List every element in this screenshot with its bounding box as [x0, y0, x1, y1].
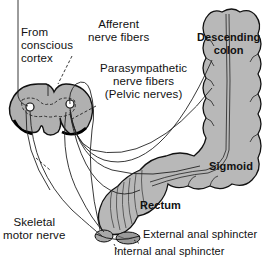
label-parasympathetic: Parasympathetic nerve fibers (Pelvic ner… — [100, 62, 187, 101]
label-afferent: Afferent nerve fibers — [88, 18, 149, 44]
label-internal-sphincter: Internal anal sphincter — [114, 245, 225, 258]
label-line: Parasympathetic — [100, 62, 187, 75]
label-line: Skeletal — [3, 216, 65, 229]
label-line: motor nerve — [3, 229, 65, 242]
label-skeletal-motor: Skeletal motor nerve — [3, 216, 65, 242]
label-pelvic-nerves: (Pelvic nerves) — [100, 88, 187, 101]
label-from-cortex: From conscious cortex — [21, 26, 73, 65]
label-line: colon — [197, 44, 260, 57]
label-line: nerve fibers — [100, 75, 187, 88]
label-external-sphincter: External anal sphincter — [143, 228, 257, 241]
label-line: nerve fibers — [88, 31, 149, 44]
label-rectum: Rectum — [140, 199, 181, 212]
label-descending-colon: Descending colon — [197, 31, 260, 57]
label-line: Descending — [197, 31, 260, 44]
label-line: conscious — [21, 39, 73, 52]
innervation-diagram: From conscious cortex Afferent nerve fib… — [0, 0, 269, 260]
label-line: Afferent — [88, 18, 149, 31]
label-sigmoid: Sigmoid — [209, 160, 253, 173]
label-line: From — [21, 26, 73, 39]
label-line: cortex — [21, 52, 73, 65]
spinal-cord — [9, 84, 92, 135]
